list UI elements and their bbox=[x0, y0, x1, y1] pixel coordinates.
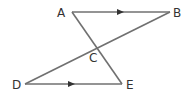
label-c: C bbox=[89, 52, 97, 64]
geometry-diagram: A B C D E bbox=[0, 0, 187, 96]
label-b: B bbox=[173, 7, 181, 19]
diagram-lines bbox=[0, 0, 187, 96]
segment-bd bbox=[25, 12, 170, 84]
label-d: D bbox=[12, 79, 21, 91]
label-a: A bbox=[57, 7, 65, 19]
parallel-arrow-de-icon bbox=[68, 81, 75, 87]
parallel-arrow-ab-icon bbox=[117, 9, 124, 15]
label-e: E bbox=[126, 79, 134, 91]
